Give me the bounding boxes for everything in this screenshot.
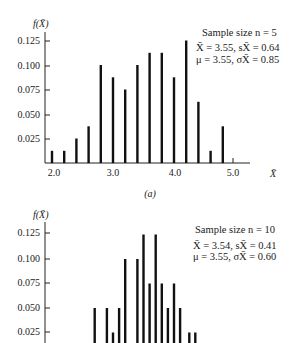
annotation-population-stats: μ = 3.55, σX̄ = 0.85 bbox=[196, 54, 279, 65]
x-tick-label: 3.0 bbox=[107, 167, 120, 178]
y-tick-label: 0.100 bbox=[18, 253, 41, 264]
bar bbox=[197, 102, 199, 163]
bar bbox=[94, 308, 96, 343]
bar bbox=[136, 65, 138, 163]
x-tick-label: 5.0 bbox=[227, 167, 240, 178]
bar bbox=[100, 65, 102, 163]
y-tick-label: 0.025 bbox=[18, 133, 41, 144]
bar bbox=[188, 333, 190, 343]
bars bbox=[94, 235, 197, 343]
bar bbox=[194, 333, 196, 343]
bar bbox=[87, 126, 89, 163]
y-tick-label: 0.075 bbox=[18, 277, 41, 288]
y-tick-label: 0.050 bbox=[18, 109, 41, 120]
bar bbox=[136, 259, 138, 343]
annotation-sample-stats: X̄ = 3.55, sX̄ = 0.64 bbox=[196, 42, 280, 53]
bar bbox=[167, 308, 169, 343]
bar bbox=[118, 308, 120, 343]
y-tick-label: 0.125 bbox=[18, 227, 41, 238]
y-axis-label: f(X̄) bbox=[33, 209, 49, 221]
x-tick-label: 2.0 bbox=[48, 167, 61, 178]
bar bbox=[173, 284, 175, 343]
bar bbox=[179, 308, 181, 343]
y-axis-label: f(X̄) bbox=[33, 18, 49, 30]
bar bbox=[185, 41, 187, 164]
panel-label: (a) bbox=[144, 188, 156, 200]
bar bbox=[106, 308, 108, 343]
bar bbox=[63, 151, 65, 163]
x-tick-label: 4.0 bbox=[169, 167, 182, 178]
bar bbox=[148, 53, 150, 163]
bar bbox=[148, 284, 150, 343]
bar bbox=[124, 259, 126, 343]
bar bbox=[222, 126, 224, 163]
y-tick-label: 0.025 bbox=[18, 326, 41, 337]
bar bbox=[142, 235, 144, 343]
bar bbox=[124, 90, 126, 164]
bar bbox=[155, 235, 157, 343]
bar bbox=[51, 151, 53, 163]
y-tick-label: 0.100 bbox=[18, 60, 41, 71]
bar bbox=[209, 151, 211, 163]
annotation-population-stats: μ = 3.55, σX̄ = 0.60 bbox=[193, 251, 276, 262]
x-axis-label: X̄ bbox=[269, 168, 277, 179]
bar bbox=[161, 284, 163, 343]
y-tick-label: 0.075 bbox=[18, 84, 41, 95]
annotation-sample-stats: X̄ = 3.54, sX̄ = 0.41 bbox=[193, 240, 277, 251]
bar bbox=[112, 333, 114, 343]
chart-2: f(X̄) 0.125 0.100 0.075 0.050 0.025 Samp… bbox=[18, 209, 277, 343]
figure: f(X̄) 0.125 0.100 0.075 0.050 0.025 2.0 … bbox=[0, 0, 293, 343]
y-tick-label: 0.050 bbox=[18, 302, 41, 313]
bar bbox=[112, 77, 114, 163]
annotation-sample-size: Sample size n = 10 bbox=[195, 224, 275, 235]
y-tick-label: 0.125 bbox=[18, 35, 41, 46]
bar bbox=[75, 139, 77, 164]
annotation-sample-size: Sample size n = 5 bbox=[202, 27, 277, 38]
bar bbox=[173, 77, 175, 163]
bar bbox=[161, 53, 163, 163]
chart-1: f(X̄) 0.125 0.100 0.075 0.050 0.025 2.0 … bbox=[18, 18, 281, 200]
